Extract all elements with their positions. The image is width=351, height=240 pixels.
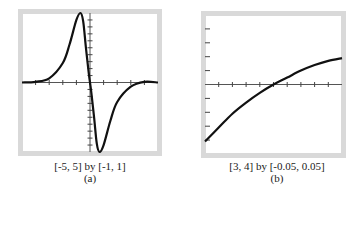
window-caption-b: [3, 4] by [-0.05, 0.05] xyxy=(212,160,342,172)
curve-line xyxy=(205,58,342,141)
panel-label-b: (b) xyxy=(212,172,342,184)
